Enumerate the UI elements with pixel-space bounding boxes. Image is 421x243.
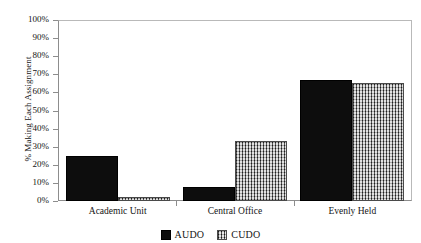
y-axis: 0%10%20%30%40%50%60%70%80%90%100% [0, 0, 58, 221]
y-tick-label: 50% [33, 105, 50, 116]
bar-chart: % Making Each Assignment 0%10%20%30%40%5… [0, 0, 421, 243]
bar-audo-1[interactable] [183, 187, 235, 201]
x-axis-label: Central Office [176, 206, 293, 216]
y-tick-label: 30% [33, 141, 50, 152]
bar-group [176, 21, 293, 201]
legend-swatch-icon [161, 230, 171, 240]
bar-cudo-2[interactable] [352, 83, 404, 201]
bar-group [59, 21, 176, 201]
y-tick-mark [53, 201, 58, 202]
x-axis-label: Academic Unit [59, 206, 176, 216]
y-tick-label: 90% [33, 32, 50, 43]
y-tick-label: 40% [33, 123, 50, 134]
bar-groups [59, 21, 411, 201]
y-tick-label: 100% [28, 14, 49, 25]
bar-group [294, 21, 411, 201]
legend-item-audo[interactable]: AUDO [161, 229, 205, 240]
legend-swatch-icon [217, 230, 227, 240]
y-tick-label: 0% [37, 195, 49, 206]
category-divider [176, 201, 177, 206]
bar-audo-0[interactable] [66, 156, 118, 201]
y-tick-label: 80% [33, 50, 50, 61]
bar-cudo-1[interactable] [235, 141, 287, 201]
y-tick-label: 20% [33, 159, 50, 170]
y-tick-label: 10% [33, 177, 50, 188]
y-tick-label: 70% [33, 68, 50, 79]
x-axis-labels: Academic UnitCentral OfficeEvenly Held [59, 206, 411, 216]
x-axis-label: Evenly Held [294, 206, 411, 216]
legend-item-cudo[interactable]: CUDO [217, 229, 260, 240]
legend-label: AUDO [175, 229, 205, 240]
bar-cudo-0[interactable] [118, 197, 170, 201]
category-divider [294, 201, 295, 206]
chart-legend: AUDOCUDO [0, 229, 421, 240]
bar-audo-2[interactable] [300, 80, 352, 201]
y-tick-label: 60% [33, 86, 50, 97]
legend-label: CUDO [231, 229, 260, 240]
